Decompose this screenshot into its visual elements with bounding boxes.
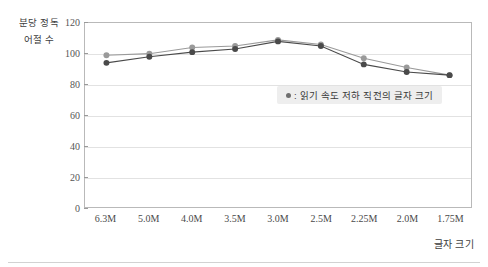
y-axis-tick-label: 120	[52, 17, 80, 28]
x-axis-tick-label: 2.0M	[397, 213, 418, 224]
y-axis-tick-mark	[84, 208, 88, 209]
data-point	[103, 52, 109, 58]
x-axis-tick-labels: 6.3M5.0M4.0M3.5M3.0M2.5M2.25M2.0M1.75M	[84, 213, 472, 231]
x-axis-title: 글자 크기	[434, 236, 474, 251]
data-point	[361, 61, 367, 67]
data-point	[189, 49, 195, 55]
x-axis-tick-label: 2.25M	[351, 213, 377, 224]
legend-marker-icon	[286, 93, 291, 98]
y-axis-tick-label: 40	[52, 141, 80, 152]
chart-legend: : 읽기 속도 저하 직전의 글자 크기	[277, 86, 442, 104]
y-axis-tick-mark	[84, 177, 88, 178]
data-point	[232, 46, 238, 52]
y-axis-tick-mark	[84, 22, 88, 23]
y-axis-tick-mark	[84, 115, 88, 116]
legend-label: : 읽기 속도 저하 직전의 글자 크기	[294, 88, 433, 102]
data-point	[103, 60, 109, 66]
x-axis-tick-label: 4.0M	[181, 213, 202, 224]
y-axis-tick-mark	[84, 146, 88, 147]
plot-area	[84, 22, 472, 208]
series-line-0	[106, 40, 449, 75]
x-axis-tick-label: 3.5M	[224, 213, 245, 224]
x-axis-tick-label: 3.0M	[267, 213, 288, 224]
y-axis-tick-label: 80	[52, 79, 80, 90]
data-point	[146, 54, 152, 60]
series-line-1	[106, 41, 449, 75]
x-axis-tick-label: 5.0M	[138, 213, 159, 224]
y-axis-tick-label: 0	[52, 203, 80, 214]
x-axis-tick-label: 1.75M	[437, 213, 463, 224]
bottom-divider	[8, 262, 480, 263]
y-axis-tick-label: 60	[52, 110, 80, 121]
data-point	[275, 38, 281, 44]
y-axis-tick-label: 20	[52, 172, 80, 183]
x-axis-tick-label: 2.5M	[310, 213, 331, 224]
x-axis-tick-label: 6.3M	[95, 213, 116, 224]
data-point	[447, 72, 453, 78]
y-axis-tick-label: 100	[52, 48, 80, 59]
series-layer	[85, 23, 471, 207]
chart-figure: 분당 정독 어절 수 020406080100120 6.3M5.0M4.0M3…	[0, 0, 488, 267]
y-axis-tick-labels: 020406080100120	[48, 22, 80, 208]
y-axis-tick-mark	[84, 53, 88, 54]
data-point	[361, 55, 367, 61]
data-point	[318, 43, 324, 49]
y-axis-tick-mark	[84, 84, 88, 85]
data-point	[404, 69, 410, 75]
